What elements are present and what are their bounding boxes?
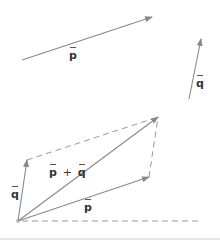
vector-label-q: q bbox=[11, 189, 19, 200]
label-q-left: q bbox=[11, 189, 19, 200]
label-p-bottom: p bbox=[84, 202, 92, 213]
vector-label-q: q bbox=[78, 167, 86, 178]
label-p-top: p bbox=[69, 50, 77, 61]
dashed-side-right bbox=[149, 117, 158, 177]
vector-label-p: p bbox=[49, 167, 57, 178]
vector-q-standalone bbox=[189, 39, 201, 99]
diagram-canvas: p q q p p + q bbox=[0, 0, 220, 240]
dashed-side-top bbox=[27, 117, 158, 160]
vector-p-standalone bbox=[22, 17, 152, 60]
vector-q-parallelogram bbox=[18, 160, 27, 221]
vector-diagram bbox=[0, 0, 220, 240]
label-p-plus-q: p + q bbox=[49, 167, 86, 178]
vector-label-p: p bbox=[69, 50, 77, 61]
vector-p-parallelogram bbox=[18, 177, 149, 221]
vector-label-p: p bbox=[84, 202, 92, 213]
plus-sign: + bbox=[63, 166, 72, 179]
label-q-top: q bbox=[196, 78, 204, 89]
vector-label-q: q bbox=[196, 78, 204, 89]
